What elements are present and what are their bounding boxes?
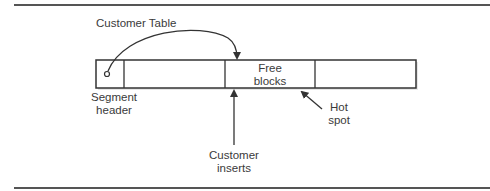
hot-spot-label: Hot spot: [322, 101, 356, 127]
customer-inserts-label-line1: Customer: [206, 149, 262, 162]
free-blocks-label: Free blocks: [246, 62, 294, 88]
hot-spot-label-line1: Hot: [322, 101, 356, 114]
customer-inserts-label: Customer inserts: [206, 149, 262, 175]
hot-spot-label-line2: spot: [322, 114, 356, 127]
segment-header-label: Segment header: [90, 91, 138, 117]
segment-header-label-line2: header: [90, 104, 138, 117]
hot-spot-arrow-icon: [302, 92, 322, 109]
free-blocks-label-line1: Free: [246, 62, 294, 75]
segment-header-label-line1: Segment: [90, 91, 138, 104]
customer-inserts-label-line2: inserts: [206, 162, 262, 175]
free-blocks-label-line2: blocks: [246, 75, 294, 88]
header-pointer-circle-icon: [105, 72, 110, 77]
customer-table-label: Customer Table: [96, 17, 176, 30]
